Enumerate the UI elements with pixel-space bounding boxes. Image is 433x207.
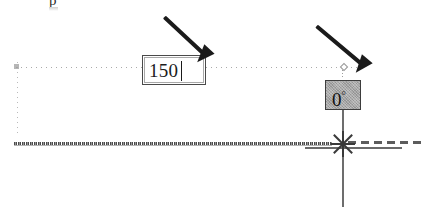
object-line-underlay [14, 145, 332, 146]
angle-input-value: 0° [332, 84, 346, 111]
distance-input-value: 150 [149, 60, 178, 82]
intersection-snap-icon [330, 131, 356, 157]
dashed-extension-line [348, 141, 424, 144]
cad-drawing-canvas[interactable]: p 150 0° [0, 0, 433, 207]
degree-symbol-icon: ° [342, 89, 346, 101]
cropped-text-fragment: p [49, 0, 58, 7]
cursor-vertical-line [342, 110, 344, 207]
vertical-tracking-guide [17, 62, 18, 136]
cropped-text-fragment-shadow [49, 7, 58, 11]
guide-origin-node-icon [14, 64, 19, 69]
angle-number: 0 [332, 89, 342, 110]
text-caret [181, 61, 182, 81]
guide-endpoint-tick [342, 70, 343, 78]
angle-dimension-input[interactable]: 0° [325, 80, 361, 110]
